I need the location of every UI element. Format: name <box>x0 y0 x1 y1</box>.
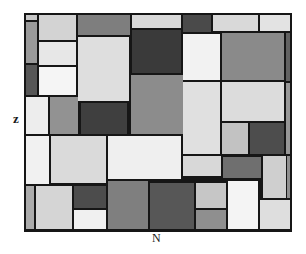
grid-cell <box>286 83 290 154</box>
grid-cell <box>250 123 284 154</box>
grid-cell <box>108 136 181 179</box>
grid-cell <box>51 136 106 183</box>
grid-cell <box>213 15 258 31</box>
grid-cell <box>260 200 290 229</box>
grid-cell <box>223 157 261 178</box>
grid-cell <box>196 210 226 229</box>
grid-cell <box>26 186 34 229</box>
grid-cell <box>39 15 76 40</box>
grid-cell <box>26 65 37 95</box>
grid-cell <box>222 82 284 121</box>
grid-cell <box>183 34 220 80</box>
grid-cell <box>26 136 49 184</box>
grid-cell <box>150 183 194 229</box>
mondrian-grid <box>24 13 292 232</box>
grid-cell <box>222 33 284 80</box>
grid-cell <box>183 15 211 32</box>
y-axis-label: z <box>13 112 19 125</box>
grid-cell <box>39 42 76 65</box>
grid-cell <box>183 156 221 176</box>
figure-canvas: z N <box>0 0 306 254</box>
grid-cell <box>131 75 183 134</box>
grid-cell <box>287 156 290 198</box>
grid-cell <box>78 37 129 101</box>
grid-cell <box>74 210 106 229</box>
grid-cell <box>108 181 148 229</box>
grid-cell <box>81 103 127 134</box>
grid-cell <box>286 33 290 81</box>
grid-cell <box>132 30 181 73</box>
grid-cell <box>260 15 290 31</box>
grid-cell <box>263 156 286 198</box>
x-axis-label: N <box>152 232 161 244</box>
grid-cell <box>36 186 72 229</box>
grid-cell <box>196 183 226 208</box>
grid-cell <box>74 186 106 208</box>
grid-cell <box>26 22 37 63</box>
grid-cell <box>222 123 248 154</box>
grid-cell <box>26 15 37 20</box>
grid-cell <box>228 181 258 229</box>
grid-cell <box>50 97 78 134</box>
grid-cell <box>183 82 220 154</box>
grid-cell <box>132 15 181 28</box>
grid-cell <box>78 15 130 35</box>
grid-cell <box>39 67 76 95</box>
grid-cell <box>26 97 48 134</box>
